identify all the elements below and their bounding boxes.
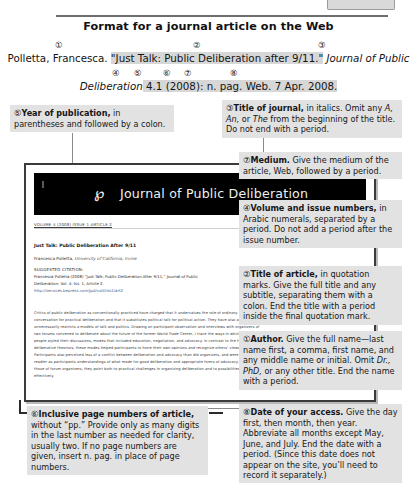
suggested-citation-line-1: Francesca Polletta (2008) “Just Talk: Pu… [34,274,198,279]
marker-7: ⑦ [184,68,192,78]
callout-3-number: ③ [226,103,234,113]
author-affiliation: University of California, Irvine [73,256,137,261]
suggested-citation-heading: SUGGESTED CITATION: [34,267,84,272]
article-title: Just Talk: Public Deliberation After 9/1… [34,243,136,248]
marker-2: ② [193,40,201,50]
callout-6-number: ⑥ [31,409,39,419]
citation-markers-line-1: ① ② ③ [0,40,417,51]
abstract-line: Critics of public deliberation as conven… [34,311,238,315]
callout-3-lead: Title of journal, [234,103,304,113]
abstract-line: people styled their discussions, modes t… [34,339,251,343]
marker-4: ④ [112,68,120,78]
callout-6-body: without “pp.” Provide only as many digit… [31,420,199,472]
journal-logo-icon: ℘ [94,184,114,204]
callout-6-lead: Inclusive page numbers of article, [39,409,195,419]
abstract-line: deliberative theorists, these modes help… [34,346,241,350]
suggested-citation-url[interactable]: http://services.bepress.com/jpd/vol4/iss… [34,288,123,293]
callout-3-title-of-journal: ③Title of journal, in italics. Omit any … [222,100,402,138]
marker-5: ⑤ [134,68,142,78]
banner-title: Journal of Public Deliberation [120,186,308,201]
callout-8-lead: Date of your access. [251,407,344,417]
citation-markers-line-2: ④ ⑤ ⑥ ⑦ ⑧ [0,68,417,79]
callout-1-number: ① [243,334,251,344]
page-title: Format for a journal article on the Web [0,20,417,33]
callout-2-lead: Title of article, [251,269,318,279]
citation-author-segment: Polletta, Francesca. [8,52,111,64]
citation-journal-cont-segment: Deliberation [80,80,143,92]
callout-1-author: ①Author. Give the full name—last name fi… [239,331,402,390]
citation-example-line-2: Deliberation 4.1 (2008): n. pag. Web. 7 … [0,80,417,92]
citation-volume-date-segment: 4.1 (2008): n. pag. Web. 7 Apr. 2008. [143,80,338,92]
banner-corner-mark [42,181,44,188]
callout-4-number: ④ [243,203,251,213]
callout-3-body-mid: or [239,114,252,124]
author-name: Francesca Polletta, [34,256,73,261]
callout-8-number: ⑧ [243,407,251,417]
marker-1: ① [55,40,63,50]
callout-1-lead: Author. [251,334,284,344]
callout-1-body-post: or any other title. End the name with a … [243,366,395,386]
callout-7-medium: ⑦Medium. Give the medium of the article,… [239,152,402,179]
callout-5-number: ⑤ [14,108,22,118]
marker-3: ③ [318,40,326,50]
callout-4-lead: Volume and issue numbers, [251,203,377,213]
callout-8-date-of-access: ⑧Date of your access. Give the day first… [239,404,402,483]
leader-line-6-right [209,412,223,414]
callout-7-lead: Medium. [251,155,290,165]
callout-8-body: Give the day first, then month, then yea… [243,407,398,480]
citation-article-title-segment: "Just Talk: Public Deliberation after 9/… [111,52,323,64]
marker-8: ⑧ [230,68,238,78]
top-horizontal-rule [56,15,388,17]
callout-4-volume-and-issue: ④Volume and issue numbers, in Arabic num… [239,200,402,248]
abstract-line: readier as participants understandings o… [34,360,273,364]
suggested-citation-line-2: Deliberation: Vol. 4: Iss. 1, Article 2. [34,281,104,286]
callout-5-year-of-publication: ⑤Year of publication, in parentheses and… [10,105,174,132]
citation-example-line-1: Polletta, Francesca. "Just Talk: Public … [0,52,417,64]
abstract-line: unnecessarily restricts a models of talk… [34,325,259,329]
callout-7-number: ⑦ [243,155,251,165]
citation-journal-segment: Journal of Public [326,52,409,64]
breadcrumb[interactable]: VOLUME 4 (2008) ISSUE 1 ARTICLE 2 [34,222,112,227]
callout-3-italic-2: The [253,114,268,124]
callout-6-inclusive-page-numbers: ⑥Inclusive page numbers of article, with… [27,406,208,475]
callout-2-title-of-article: ②Title of article, in quotation marks. G… [239,266,402,325]
abstract-line: Participants also perceived less of a co… [34,353,239,357]
callout-3-body-pre: in italics. Omit any [304,103,385,113]
callout-5-lead: Year of publication, [22,108,111,118]
browser-tab-artifact [327,0,395,10]
article-author: Francesca Polletta, University of Califo… [34,256,137,261]
marker-6: ⑥ [163,68,171,78]
callout-2-number: ② [243,269,251,279]
abstract-line: two forums convened to deliberate about … [34,332,241,336]
abstract-line: conversation for practical deliberation … [34,318,262,322]
abstract-line: effectively. [34,374,54,378]
